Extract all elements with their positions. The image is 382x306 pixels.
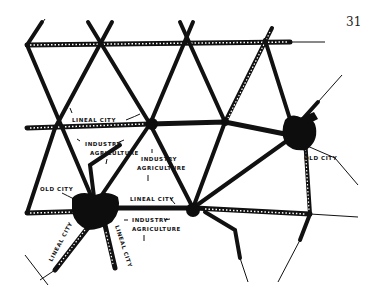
old-city-left bbox=[72, 193, 119, 230]
junction-lower bbox=[186, 203, 200, 217]
label-agriculture: AGRICULTURE bbox=[137, 165, 186, 171]
label-lineal-city: LINEAL CITY bbox=[114, 224, 133, 268]
label-old-city: OLD CITY bbox=[304, 155, 338, 161]
label-industry: INDUSTRY bbox=[132, 217, 169, 223]
diagonal-roads bbox=[25, 19, 358, 285]
label-lineal-city: LINEAL CITY bbox=[72, 117, 116, 123]
label-industry: INDUSTRY bbox=[85, 141, 122, 147]
label-lineal-city: LINEAL CITY bbox=[130, 196, 174, 202]
label-agriculture: AGRICULTURE bbox=[90, 150, 139, 156]
label-agriculture: AGRICULTURE bbox=[132, 226, 181, 232]
label-industry: INDUSTRY bbox=[141, 156, 178, 162]
linear-city-network-sketch: LINEAL CITY INDUSTRY AGRICULTURE INDUSTR… bbox=[0, 0, 382, 306]
label-lineal-city: LINEAL CITY bbox=[48, 220, 74, 262]
junction-center bbox=[146, 118, 158, 130]
label-old-city: OLD CITY bbox=[40, 186, 74, 192]
junction-upper bbox=[221, 118, 229, 126]
